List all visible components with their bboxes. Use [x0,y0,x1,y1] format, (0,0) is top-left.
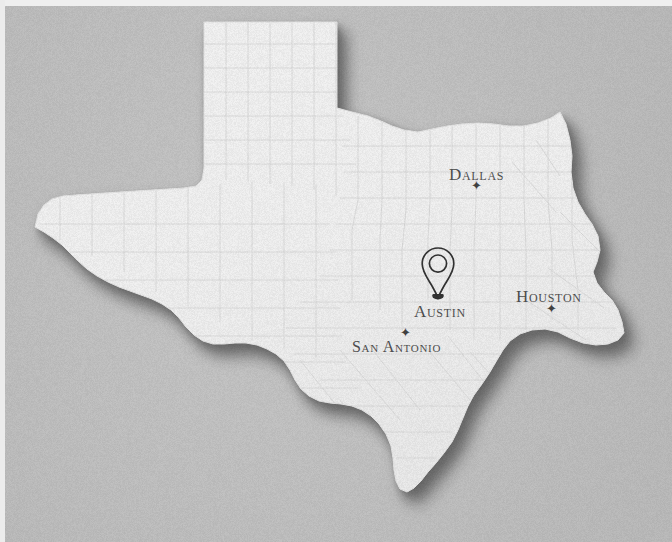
texas-landmass [35,22,624,492]
san-antonio-label: San Antonio [352,338,441,356]
texas-map [0,0,672,542]
scan-edge-top [0,0,672,6]
map-pin-icon [419,245,457,305]
houston-label: Houston [516,287,582,307]
texas-map-svg [0,0,672,542]
austin-location-pin [419,245,457,305]
scan-edge-left [0,0,5,542]
map-image: ✦ Dallas ✦ Houston ✦ San Antonio Austin [0,0,672,542]
dallas-label: Dallas [449,165,504,185]
